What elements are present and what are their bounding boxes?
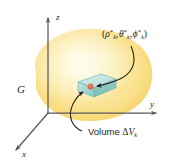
figure-canvas bbox=[0, 0, 171, 167]
sample-point-dot bbox=[88, 84, 94, 90]
x-axis bbox=[16, 113, 48, 150]
spherical-volume-element-figure: z y x G (ρ*k, θ*k, ϕ*k) Volume ΔVk bbox=[0, 0, 171, 167]
solid-region-blob bbox=[35, 29, 152, 121]
